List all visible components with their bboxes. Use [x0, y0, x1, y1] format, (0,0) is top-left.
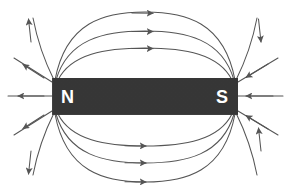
north-pole-label: N [61, 88, 74, 106]
south-fan-lower-diagonal-arrow [246, 116, 268, 130]
north-fan-up [33, 18, 54, 80]
south-fan-up [236, 18, 257, 80]
north-fan-upper-diagonal-arrow [23, 65, 44, 79]
bar-magnet: N S [52, 78, 238, 115]
lower-arc-inner [58, 114, 232, 146]
upper-field-arcs [55, 12, 235, 80]
south-fan-up-arrow [259, 19, 262, 42]
north-pole-fan [8, 18, 54, 175]
north-fan-down [33, 113, 54, 175]
lower-arc-middle [56, 114, 234, 163]
upper-arc-outer [55, 12, 235, 80]
south-fan-upper-diagonal-arrow [246, 64, 268, 78]
north-fan-lower-diagonal-arrow [23, 115, 44, 129]
south-fan-down-arrow [259, 128, 262, 151]
upper-arc-inner [58, 48, 232, 80]
lower-field-arcs [55, 114, 235, 182]
south-pole-fan [236, 18, 283, 175]
south-pole-label: S [216, 88, 228, 106]
upper-arc-middle [56, 31, 234, 80]
south-fan-down [236, 113, 257, 175]
lower-arc-outer [55, 114, 235, 182]
magnetic-field-figure: N S [0, 0, 290, 189]
north-fan-down-arrow [29, 151, 32, 174]
north-fan-up-arrow [29, 19, 32, 42]
